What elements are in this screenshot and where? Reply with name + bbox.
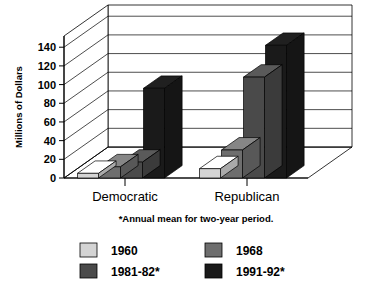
- bar-chart: 020406080100120140DemocraticRepublicanMi…: [0, 0, 392, 297]
- bar-side-face: [287, 33, 305, 178]
- y-tick-label: 0: [50, 172, 56, 184]
- legend-swatch-1981-82: [80, 264, 97, 278]
- y-tick-label: 60: [44, 116, 56, 128]
- bar-side-face: [165, 76, 183, 178]
- chart-canvas: 020406080100120140DemocraticRepublicanMi…: [0, 0, 392, 297]
- legend-label-1960: 1960: [111, 244, 138, 258]
- y-tick-label: 140: [38, 41, 56, 53]
- y-tick-label: 120: [38, 60, 56, 72]
- bar-side-face: [265, 65, 283, 178]
- y-axis-title: Millions of Dollars: [13, 66, 24, 148]
- legend-label-1991-92: 1991-92*: [236, 265, 285, 279]
- bar-front-face: [200, 169, 221, 178]
- y-tick-label: 80: [44, 97, 56, 109]
- legend-label-1968: 1968: [236, 244, 263, 258]
- category-label-democratic: Democratic: [92, 189, 158, 204]
- category-label-republican: Republican: [214, 189, 279, 204]
- legend-swatch-1960: [80, 243, 97, 257]
- legend-swatch-1991-92: [205, 264, 222, 278]
- y-tick-label: 40: [44, 135, 56, 147]
- legend-label-1981-82: 1981-82*: [111, 265, 160, 279]
- y-tick-label: 20: [44, 153, 56, 165]
- bar-front-face: [78, 173, 99, 178]
- chart-footnote: *Annual mean for two-year period.: [119, 213, 274, 224]
- legend-swatch-1968: [205, 243, 222, 257]
- y-tick-label: 100: [38, 79, 56, 91]
